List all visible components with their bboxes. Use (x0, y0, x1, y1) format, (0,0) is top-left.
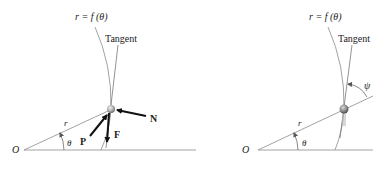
theta-arc (60, 133, 64, 150)
psi-label: ψ (364, 80, 371, 91)
left-curve-label: r = f (θ) (75, 11, 108, 23)
polar-coordinates-diagram: r = f (θ) Tangent O r θ N P F r = f (θ) … (0, 0, 373, 174)
left-radius-label: r (64, 118, 68, 128)
theta-arc (294, 133, 298, 150)
force-n-label: N (150, 113, 158, 124)
right-origin-label: O (242, 144, 249, 155)
left-tangent-label: Tangent (105, 33, 137, 44)
polar-curve (328, 27, 344, 150)
particle (107, 105, 115, 113)
force-n-arrow (117, 110, 146, 116)
left-origin-label: O (12, 144, 19, 155)
left-theta-label: θ (67, 138, 72, 148)
right-tangent-label: Tangent (338, 33, 370, 44)
force-f-arrow (107, 113, 109, 142)
right-theta-label: θ (302, 138, 307, 148)
force-f-label: F (114, 129, 120, 140)
right-curve-label: r = f (θ) (309, 11, 342, 23)
right-radius-label: r (298, 118, 302, 128)
particle (340, 105, 349, 114)
left-diagram: r = f (θ) Tangent O r θ N P F (12, 11, 186, 155)
particle-shadow (342, 112, 346, 126)
radial-line (258, 96, 373, 150)
force-p-label: P (80, 136, 86, 147)
right-diagram: r = f (θ) Tangent O r θ ψ (186, 11, 373, 155)
